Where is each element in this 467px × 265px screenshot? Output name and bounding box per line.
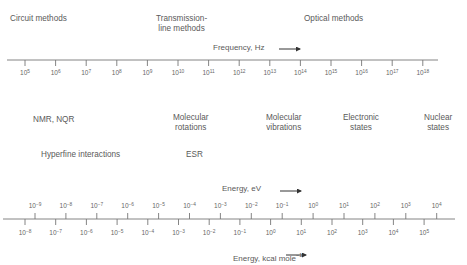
energy-kcal-tick-label: 10−1 <box>234 229 247 237</box>
energy-kcal-tick-label: 10−2 <box>203 229 216 237</box>
energy-ev-tick-label: 10−8 <box>60 202 73 210</box>
frequency-tick-label: 107 <box>81 69 91 77</box>
energy-kcal-tick-label: 10−3 <box>172 229 185 237</box>
energy-kcal-tick-label: 105 <box>419 229 429 237</box>
energy-kcal-tick-label: 10−6 <box>80 229 93 237</box>
energy-kcal-tick-label: 104 <box>388 229 398 237</box>
energy-ev-tick-label: 10−1 <box>276 202 289 210</box>
energy-kcal-tick-label: 10−4 <box>141 229 154 237</box>
energy-ev-tick-label: 10−7 <box>90 202 103 210</box>
energy-ev-tick-label: 103 <box>401 202 411 210</box>
frequency-tick-label: 108 <box>112 69 122 77</box>
energy-ev-tick-label: 10−9 <box>29 202 42 210</box>
energy-ev-tick-label: 10−6 <box>121 202 134 210</box>
frequency-tick-label: 106 <box>51 69 61 77</box>
frequency-tick-label: 1012 <box>233 69 246 77</box>
frequency-tick-label: 1014 <box>294 69 307 77</box>
energy-kcal-tick-label: 103 <box>358 229 368 237</box>
frequency-tick-label: 1015 <box>325 69 338 77</box>
energy-kcal-tick-label: 10−7 <box>49 229 62 237</box>
energy-kcal-tick-label: 100 <box>266 229 276 237</box>
energy-ev-tick-label: 10−5 <box>152 202 165 210</box>
energy-kcal-tick-label: 101 <box>296 229 306 237</box>
energy-ev-tick-label: 102 <box>370 202 380 210</box>
energy-kcal-tick-label: 10−8 <box>19 229 32 237</box>
energy-ev-tick-label: 100 <box>308 202 318 210</box>
frequency-tick-label: 1017 <box>386 69 399 77</box>
energy-kcal-tick-label: 10−5 <box>111 229 124 237</box>
frequency-tick-label: 1013 <box>264 69 277 77</box>
spectrum-diagram: 1051061071081091010101110121013101410151… <box>0 0 467 265</box>
frequency-tick-label: 109 <box>142 69 152 77</box>
energy-kcal-tick-label: 102 <box>327 229 337 237</box>
frequency-tick-label: 1018 <box>417 69 430 77</box>
energy-ev-tick-label: 101 <box>339 202 349 210</box>
energy-ev-tick-label: 10−3 <box>214 202 227 210</box>
energy-ev-tick-label: 104 <box>432 202 442 210</box>
frequency-tick-label: 1011 <box>202 69 215 77</box>
energy-ev-tick-label: 10−4 <box>183 202 196 210</box>
frequency-tick-label: 105 <box>20 69 30 77</box>
frequency-tick-label: 1016 <box>355 69 368 77</box>
energy-ev-tick-label: 10−2 <box>245 202 258 210</box>
frequency-tick-label: 1010 <box>172 69 185 77</box>
